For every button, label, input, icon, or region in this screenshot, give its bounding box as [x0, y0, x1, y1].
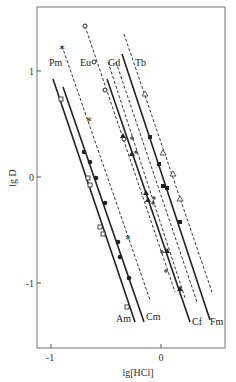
series-label-pm: Pm	[49, 57, 63, 68]
x-ticks	[51, 344, 161, 348]
x-tick-label-0: 0	[159, 352, 164, 363]
series-label-cf: Cf	[192, 316, 203, 327]
series-label-gd: Gd	[108, 57, 120, 68]
y-axis-label: lg D	[7, 169, 18, 187]
plot-frame	[37, 7, 225, 348]
y-ticks	[37, 71, 41, 283]
markers-gd	[130, 136, 168, 273]
series-label-tb: Tb	[135, 57, 146, 68]
line-pm	[62, 46, 150, 300]
series-label-eu: Eu	[80, 57, 91, 68]
line-gd	[108, 62, 185, 298]
line-tb	[124, 34, 212, 292]
series-label-am: Am	[116, 313, 131, 324]
svg-text:*: *	[86, 115, 92, 128]
solid-lines	[53, 54, 210, 322]
series-label-cm: Cm	[146, 311, 161, 322]
svg-text:*: *	[59, 43, 65, 56]
svg-text:*: *	[125, 233, 131, 246]
line-am	[53, 79, 135, 322]
series-label-fm: Fm	[210, 316, 224, 327]
y-tick-label-1: 1	[29, 66, 34, 77]
y-tick-label-minus1: -1	[26, 278, 34, 289]
line-gd2	[116, 62, 197, 302]
x-tick-label-minus1: -1	[46, 352, 54, 363]
x-axis-label: lg[HCl]	[122, 367, 153, 378]
chart: -1 0 1 0 -1 lg[HCl] lg D	[0, 0, 236, 382]
y-tick-label-0: 0	[29, 172, 34, 183]
markers-pm: * * *	[59, 43, 131, 246]
